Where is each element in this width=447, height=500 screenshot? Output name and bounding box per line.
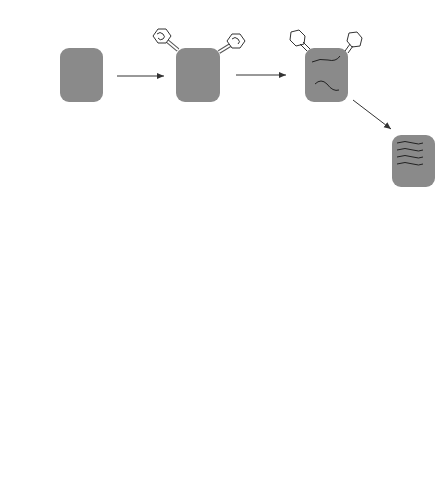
arrow-replicate <box>353 100 391 129</box>
phage-y-icon <box>219 34 245 52</box>
phage-x-icon <box>153 29 178 50</box>
coinfected-cell <box>176 48 220 102</box>
injected-dna-cell <box>305 48 348 102</box>
recombination-diagram <box>0 0 447 500</box>
diagram-canvas <box>0 0 447 500</box>
ecoli-b-cell <box>60 48 103 102</box>
